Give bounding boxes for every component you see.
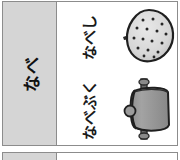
page-root: なべ なべし なべぶく (0, 0, 180, 160)
row-label-bottom: なべぶく (78, 79, 99, 139)
table-header-column: なべ (3, 2, 57, 145)
table-header-column-next (3, 153, 57, 160)
header-column-label: なべ (17, 56, 42, 92)
illustration-cell-bottom (119, 74, 177, 146)
pot-side-view-icon (120, 78, 176, 140)
table-block-next (2, 152, 178, 160)
illustration-cell-top (119, 2, 177, 74)
label-column: なべし なべぶく (57, 2, 119, 145)
illustration-column (119, 2, 177, 145)
table-row: なべ なべし なべぶく (3, 2, 177, 145)
frying-pan-top-view-icon (119, 7, 177, 69)
row-label-top: なべし (78, 15, 99, 60)
table-block: なべ なべし なべぶく (2, 1, 178, 146)
label-cell-top: なべし (57, 2, 119, 74)
label-cell-bottom: なべぶく (57, 74, 119, 146)
